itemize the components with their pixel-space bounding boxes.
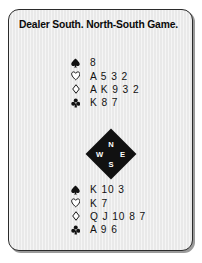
suit-cards-clubs-north: K 8 7 — [90, 97, 118, 108]
suit-row-hearts-south: K 7 — [69, 196, 146, 209]
suit-row-spades-south: K 10 3 — [69, 183, 146, 196]
compass-label-west: W — [94, 151, 106, 159]
deal-header-text: Dealer South. North-South Game. — [19, 19, 184, 30]
club-icon — [69, 225, 82, 235]
suit-cards-hearts-south: K 7 — [90, 198, 108, 209]
compass-rose: N W E S — [86, 129, 136, 179]
suit-row-spades-north: 8 — [69, 56, 139, 69]
south-hand: K 10 3 K 7 Q J 10 8 7 — [69, 183, 146, 237]
heart-icon — [69, 71, 82, 81]
compass-label-north: N — [105, 141, 117, 149]
compass-label-east: E — [117, 151, 129, 159]
compass-label-south: S — [105, 161, 117, 169]
suit-row-diamonds-south: Q J 10 8 7 — [69, 210, 146, 223]
suit-row-hearts-north: A 5 3 2 — [69, 69, 139, 82]
club-icon — [69, 98, 82, 108]
suit-cards-diamonds-north: A K 9 3 2 — [90, 84, 139, 95]
suit-cards-diamonds-south: Q J 10 8 7 — [90, 211, 146, 222]
bridge-deal-card: Dealer South. North-South Game. 8 A 5 3 … — [8, 9, 193, 251]
suit-cards-clubs-south: A 9 6 — [90, 224, 118, 235]
suit-cards-hearts-north: A 5 3 2 — [90, 71, 128, 82]
suit-row-diamonds-north: A K 9 3 2 — [69, 83, 139, 96]
suit-row-clubs-north: K 8 7 — [69, 96, 139, 109]
suit-cards-spades-south: K 10 3 — [90, 184, 125, 195]
spade-icon — [69, 58, 82, 68]
suit-row-clubs-south: A 9 6 — [69, 223, 146, 236]
heart-icon — [69, 198, 82, 208]
suit-cards-spades-north: 8 — [90, 57, 97, 68]
spade-icon — [69, 185, 82, 195]
diamond-icon — [69, 84, 82, 94]
north-hand: 8 A 5 3 2 A K 9 3 2 — [69, 56, 139, 110]
diamond-icon — [69, 211, 82, 221]
